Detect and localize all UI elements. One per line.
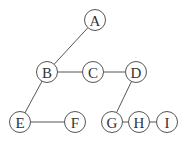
node-I: I	[157, 112, 178, 133]
node-label: H	[134, 115, 145, 131]
node-D: D	[126, 62, 147, 83]
node-label: E	[15, 115, 24, 131]
node-label: F	[71, 115, 79, 131]
node-label: C	[88, 65, 98, 81]
node-H: H	[129, 112, 150, 133]
node-label: B	[42, 65, 52, 81]
node-label: I	[165, 115, 170, 131]
node-C: C	[83, 62, 104, 83]
node-A: A	[85, 10, 106, 31]
node-label: D	[131, 65, 142, 81]
node-F: F	[65, 112, 86, 133]
node-label: A	[90, 13, 101, 29]
node-B: B	[37, 62, 58, 83]
graph-diagram: ABCDEFGHI	[0, 0, 190, 142]
node-label: G	[107, 115, 118, 131]
node-E: E	[10, 112, 31, 133]
node-G: G	[102, 112, 123, 133]
